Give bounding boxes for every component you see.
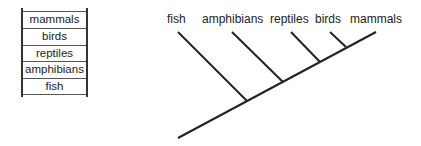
tree-label-reptiles: reptiles bbox=[270, 12, 309, 26]
branch-fish bbox=[178, 32, 247, 101]
branch-reptiles bbox=[291, 32, 320, 62]
tree-label-mammals: mammals bbox=[350, 12, 402, 26]
branch-birds bbox=[330, 32, 346, 47]
tree-label-birds: birds bbox=[315, 12, 341, 26]
tree-label-amphibians: amphibians bbox=[202, 12, 263, 26]
tree-label-fish: fish bbox=[167, 12, 186, 26]
tree-trunk bbox=[178, 32, 376, 138]
branch-amphibians bbox=[232, 32, 283, 82]
